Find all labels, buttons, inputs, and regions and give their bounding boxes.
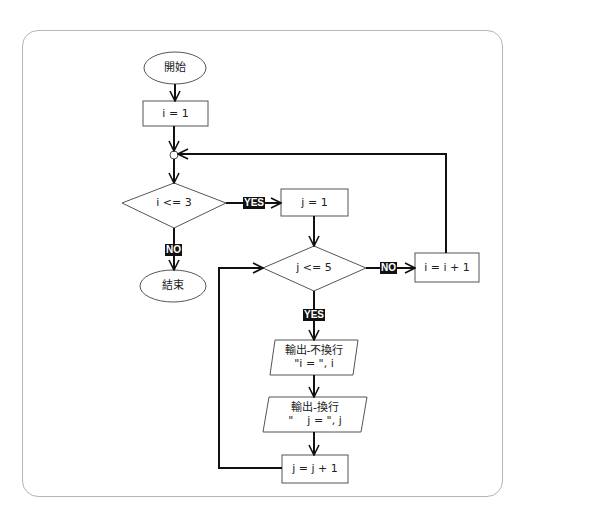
end-label: 結束 bbox=[140, 279, 206, 292]
yes-j-tag: YES bbox=[303, 309, 325, 321]
output1-line1: 輸出-不換行 bbox=[270, 344, 358, 357]
inc-j-label: j = j + 1 bbox=[282, 462, 348, 475]
output2-line2: " j = ", j bbox=[263, 414, 367, 427]
no-j-tag: NO bbox=[380, 262, 397, 274]
no-i-tag: NO bbox=[165, 244, 182, 256]
yes-i-tag: YES bbox=[243, 197, 265, 209]
cond-i-label: i <= 3 bbox=[140, 196, 208, 209]
output2-line1: 輸出-換行 bbox=[263, 401, 367, 414]
init-i-label: i = 1 bbox=[143, 107, 208, 120]
start-label: 開始 bbox=[145, 61, 205, 74]
inc-i-label: i = i + 1 bbox=[415, 261, 479, 274]
init-j-label: j = 1 bbox=[281, 196, 348, 209]
cond-j-label: j <= 5 bbox=[280, 261, 348, 274]
output1-line2: "i = ", i bbox=[270, 357, 358, 370]
junction-connector bbox=[170, 151, 178, 159]
